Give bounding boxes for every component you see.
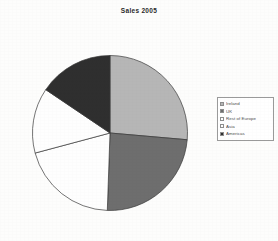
- legend-swatch-icon-rest-of-europe: [220, 117, 224, 121]
- pie-chart-svg: [31, 54, 189, 212]
- legend-item-americas[interactable]: Americas: [220, 130, 271, 137]
- legend-swatch-icon-americas: [220, 132, 224, 136]
- pie-chart-plot-area: [31, 54, 189, 212]
- pie-slice-uk[interactable]: [107, 133, 187, 210]
- chart-title: Sales 2005: [0, 7, 278, 14]
- pie-slice-group: [32, 56, 187, 211]
- legend-swatch-icon-uk: [220, 109, 224, 113]
- legend-label-rest-of-europe: Rest of Europe: [226, 116, 256, 121]
- pie-slice-ireland[interactable]: [110, 56, 188, 140]
- chart-legend: Ireland UK Rest of Europe Asia Americas: [217, 97, 274, 141]
- chart-page: Sales 2005 Ireland UK Rest of Europe Asi…: [0, 0, 278, 241]
- legend-item-asia[interactable]: Asia: [220, 123, 271, 130]
- legend-label-americas: Americas: [226, 131, 245, 136]
- legend-item-rest-of-europe[interactable]: Rest of Europe: [220, 115, 271, 122]
- legend-item-ireland[interactable]: Ireland: [220, 100, 271, 107]
- legend-swatch-icon-ireland: [220, 102, 224, 106]
- legend-label-asia: Asia: [226, 124, 235, 129]
- legend-swatch-icon-asia: [220, 124, 224, 128]
- legend-item-uk[interactable]: UK: [220, 108, 271, 115]
- legend-label-uk: UK: [226, 109, 232, 114]
- legend-label-ireland: Ireland: [226, 101, 240, 106]
